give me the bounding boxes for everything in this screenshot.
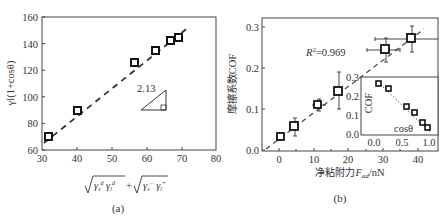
x-tick-b: 40 bbox=[413, 154, 424, 165]
x-tick-b: 20 bbox=[343, 154, 354, 165]
y-axis-label-a: γl(1+cosθ) bbox=[5, 60, 17, 106]
figure: 60 80 100 120 140 160 30 40 50 60 70 80 … bbox=[0, 0, 445, 218]
x-tick-b: 30 bbox=[378, 154, 389, 165]
x-tick-a: 30 bbox=[37, 153, 48, 164]
y-tick-a: 80 bbox=[28, 118, 39, 129]
svg-text:γs− γl+: γs− γl+ bbox=[143, 180, 166, 192]
x-tick-a: 50 bbox=[107, 153, 118, 164]
inset-x-tick: 1.0 bbox=[422, 137, 435, 148]
y-tick-b: 0.1 bbox=[246, 104, 259, 115]
y-tick-a: 100 bbox=[22, 92, 38, 103]
inset-y-tick: 0.2 bbox=[346, 91, 359, 102]
svg-text:γsd γld: γsd γld bbox=[94, 180, 116, 192]
caption-a: (a) bbox=[112, 202, 125, 215]
inset-x-label: cosθ bbox=[394, 123, 413, 134]
x-tick-b: 0 bbox=[276, 154, 281, 165]
inset-y-tick: 0.1 bbox=[346, 110, 359, 121]
svg-text:+: + bbox=[126, 180, 132, 191]
y-tick-a: 120 bbox=[22, 65, 38, 76]
panel-b-chart: 0.0 0.1 0.2 0.3 0 10 20 30 40 摩擦系数COF 净粘… bbox=[226, 18, 438, 205]
inset-y-tick: 0.0 bbox=[346, 129, 359, 140]
y-axis-label-b: 摩擦系数COF bbox=[226, 54, 238, 115]
inset-chart: 0.0 0.1 0.2 0.3 0.0 0.5 1.0 COF cosθ bbox=[346, 72, 438, 148]
y-tick-b: 0.3 bbox=[246, 22, 259, 33]
plot-frame-a bbox=[42, 17, 216, 150]
y-tick-a: 160 bbox=[22, 12, 38, 23]
inset-y-label: COF bbox=[363, 93, 374, 114]
x-tick-a: 70 bbox=[177, 153, 188, 164]
x-tick-a: 40 bbox=[72, 153, 83, 164]
r-squared-label: R2=0.969 bbox=[305, 46, 345, 58]
x-axis-label-b: 净粘附力Fad/nN bbox=[315, 166, 385, 180]
slope-label: 2.13 bbox=[137, 83, 155, 94]
panel-a-chart: 60 80 100 120 140 160 30 40 50 60 70 80 … bbox=[5, 12, 221, 215]
y-tick-b: 0.0 bbox=[246, 145, 259, 156]
inset-x-tick: 0.0 bbox=[367, 137, 380, 148]
caption-b: (b) bbox=[334, 192, 347, 205]
x-tick-a: 60 bbox=[142, 153, 153, 164]
y-tick-b: 0.2 bbox=[246, 63, 259, 74]
inset-x-tick: 0.5 bbox=[395, 137, 408, 148]
y-tick-a: 140 bbox=[22, 39, 38, 50]
x-tick-b: 10 bbox=[309, 154, 320, 165]
x-tick-a: 80 bbox=[211, 153, 222, 164]
inset-y-tick: 0.3 bbox=[346, 72, 359, 83]
